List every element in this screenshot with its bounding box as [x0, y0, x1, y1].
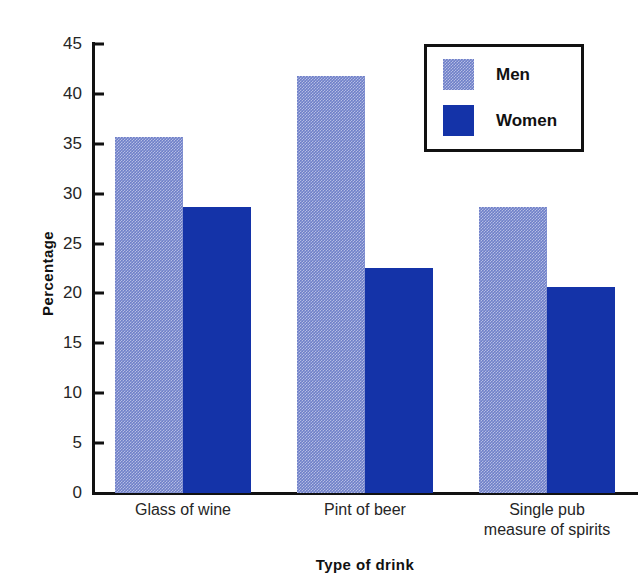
y-axis-tick-label: 25 — [30, 234, 82, 254]
bar-men-0 — [115, 137, 183, 493]
bar-chart: Percentage 051015202530354045 Glass of w… — [0, 0, 643, 580]
x-axis-title: Type of drink — [92, 556, 638, 573]
y-axis-tick-mark — [92, 242, 104, 245]
legend-swatch-women-icon — [443, 105, 474, 136]
legend-item-women: Women — [443, 105, 557, 136]
legend-item-men: Men — [443, 59, 530, 90]
y-axis-tick-label: 30 — [30, 184, 82, 204]
y-axis-tick-mark — [92, 292, 104, 295]
y-axis-tick-label: 35 — [30, 134, 82, 154]
y-axis-tick-label: 0 — [30, 483, 82, 503]
y-axis-tick-label: 40 — [30, 84, 82, 104]
x-axis-tick-labels: Glass of winePint of beerSingle pubmeasu… — [92, 500, 638, 560]
bar-women-2 — [547, 287, 615, 493]
y-axis-tick-mark — [92, 342, 104, 345]
legend-swatch-men-icon — [443, 59, 474, 90]
y-axis-tick-label: 15 — [30, 333, 82, 353]
y-axis-tick-mark — [92, 442, 104, 445]
x-axis-tick-label: Glass of wine — [92, 500, 274, 520]
y-axis-tick-label: 10 — [30, 383, 82, 403]
x-axis-tick-label: Pint of beer — [274, 500, 456, 520]
bar-men-2 — [479, 207, 547, 493]
y-axis-tick-label: 45 — [30, 34, 82, 54]
y-axis-tick-mark — [92, 142, 104, 145]
legend-label-men: Men — [496, 65, 530, 85]
y-axis-tick-mark — [92, 92, 104, 95]
chart-legend: Men Women — [424, 44, 584, 152]
y-axis-tick-mark — [92, 392, 104, 395]
bar-men-1 — [297, 76, 365, 493]
y-axis-tick-label: 20 — [30, 283, 82, 303]
y-axis-tick-labels: 051015202530354045 — [30, 0, 82, 580]
y-axis-tick-label: 5 — [30, 433, 82, 453]
y-axis-tick-mark — [92, 192, 104, 195]
y-axis-tick-mark — [92, 43, 104, 46]
bar-women-1 — [365, 268, 433, 493]
legend-label-women: Women — [496, 111, 557, 131]
x-axis-tick-label: Single pubmeasure of spirits — [456, 500, 638, 540]
bar-women-0 — [183, 207, 251, 493]
